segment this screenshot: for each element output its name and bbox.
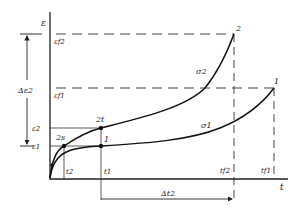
tick-t1: t1	[104, 168, 111, 176]
point-2t	[99, 126, 103, 130]
label-1: 1	[104, 135, 109, 144]
point-2s	[62, 144, 66, 148]
diagram-canvas: ε t 2s 2t 1 2 1 σ2 σ1 εf2 εf1 ε2 ε1 t2 t…	[0, 0, 302, 212]
x-axis-label: t	[280, 182, 284, 192]
label-2t: 2t	[95, 115, 105, 124]
tick-tf1: tf1	[261, 167, 271, 175]
label-end2: 2	[235, 24, 241, 33]
creep-diagram: ε t 2s 2t 1 2 1 σ2 σ1 εf2 εf1 ε2 ε1 t2 t…	[0, 0, 302, 212]
sigma1-curve	[50, 88, 274, 178]
delta-e2-label: Δε2	[17, 86, 33, 95]
tick-e2: ε2	[32, 125, 41, 133]
tick-ef2: εf2	[54, 38, 65, 46]
y-axis-label: ε	[41, 18, 46, 28]
tick-ef1: εf1	[54, 92, 65, 100]
sigma1-label: σ1	[201, 121, 212, 130]
sigma2-curve	[50, 34, 234, 178]
tick-t2: t2	[66, 168, 74, 176]
label-2s: 2s	[55, 133, 65, 142]
tick-tf2: tf2	[220, 167, 230, 175]
point-1	[99, 144, 103, 148]
sigma2-label: σ2	[196, 67, 207, 76]
tick-e1: ε1	[32, 143, 40, 151]
delta-t2-label: Δt2	[160, 189, 175, 198]
label-end1: 1	[274, 77, 279, 86]
origin-point	[50, 163, 54, 167]
